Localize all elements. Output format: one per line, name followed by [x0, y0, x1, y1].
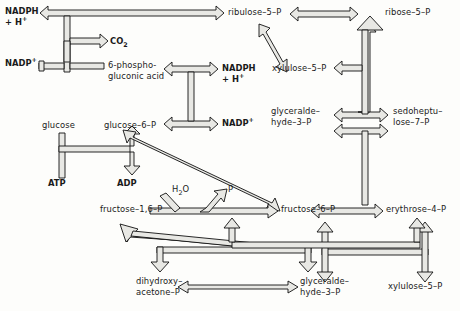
label-sedoheptulose-7-p: sedoheptu–lose–7–P: [393, 106, 443, 128]
arrow-adp-down: [124, 152, 140, 175]
trunk-right-lower: [362, 131, 368, 205]
label-glucose-6-p: glucose–6–P: [104, 120, 156, 131]
label-xylulose-5-p-bottom: xylulose–5–P: [388, 281, 442, 292]
bar-f6p-e4p-down: [232, 242, 420, 248]
label-erythrose-4-p: erythrose–4–P: [386, 204, 446, 215]
arrowhead-gap-up: [317, 222, 333, 232]
label-inorganic-phosphate: P: [228, 184, 233, 195]
label-nadph-mid: NADPH+ H+: [222, 63, 256, 84]
label-adp: ADP: [117, 178, 137, 189]
label-dihydroxyacetone-p: dihydroxy–acetone–P: [136, 276, 182, 298]
pathway-arrows: [0, 0, 460, 311]
arrowhead-f6p-up2: [224, 218, 240, 228]
trunk-mid-oxidative: [188, 72, 194, 121]
label-glyceraldehyde-3-p-bottom: glyceralde–hyde–3–P: [300, 276, 349, 298]
label-nadp-top: NADP+: [5, 58, 37, 69]
arrow-dhap-gap: [178, 281, 298, 293]
arrow-gap-sed-lower: [334, 124, 388, 138]
label-nadp-mid: NADP+: [222, 118, 254, 129]
label-fructose-6-p: fructose–6–P: [281, 204, 335, 215]
label-6-phosphogluconic-acid: 6-phospho-gluconic acid: [108, 60, 164, 82]
label-h2o: H2O: [172, 184, 189, 195]
label-ribulose-5-p: ribulose–5–P: [228, 7, 281, 18]
bar-bottom-connector: [322, 249, 428, 255]
label-glucose: glucose: [42, 120, 75, 131]
label-co2: CO2: [110, 36, 128, 47]
bar-glucose-g6p: [59, 146, 130, 152]
trunk-glucose: [59, 133, 65, 178]
trunk-co2: [64, 41, 70, 62]
arrowhead-e4p-up2: [409, 218, 425, 228]
trunk-right-line: [362, 30, 368, 114]
pathway-diagram: NADPH+ H+ NADP+ CO2 6-phospho-gluconic a…: [0, 0, 460, 311]
label-xylulose-5-p-top: xylulose–5–P: [272, 63, 326, 74]
label-ribose-5-p: ribose–5–P: [385, 7, 430, 18]
label-nadph-top: NADPH+ H+: [5, 6, 39, 27]
arrowhead-ribose: [357, 16, 383, 30]
arrow-to-xylulose-top: [334, 61, 362, 75]
arrow-nadp-corner: [39, 61, 44, 71]
arrow-xyl-vertical: [422, 228, 428, 276]
arrow-gap-sed-upper: [334, 108, 388, 122]
arrow-gap-vertical: [322, 228, 328, 276]
bar-6pg: [70, 63, 104, 69]
label-fructose-1-6-p: fructose–1,6–P: [100, 204, 162, 215]
arrow-co2: [70, 34, 108, 48]
arrow-g6p-f6p-diagonal: [123, 130, 280, 211]
arrow-ribulose-ribose: [290, 7, 358, 21]
label-glyceraldehyde-3-p-mid: glyceralde–hyde–3–P: [271, 106, 320, 128]
label-atp: ATP: [48, 178, 66, 189]
